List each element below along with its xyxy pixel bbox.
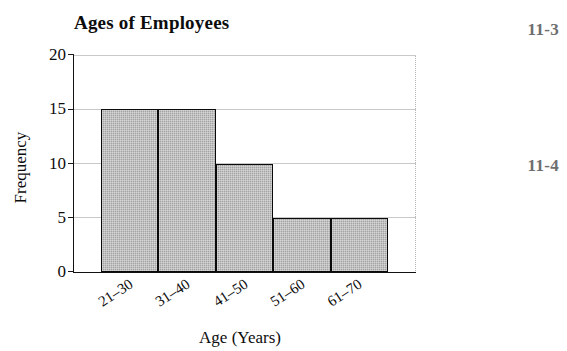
- histogram-figure: Ages of Employees 05101520 21–3031–4041–…: [0, 0, 567, 351]
- plot-area: [73, 55, 416, 273]
- y-tick-label: 20: [38, 46, 66, 63]
- y-axis-title: Frequency: [11, 116, 30, 220]
- x-tick-label: 61–70: [325, 277, 365, 310]
- y-tick-label-wrap: 20: [30, 46, 66, 63]
- x-axis-title: Age (Years): [150, 328, 330, 347]
- page-marker-2: 11-4: [528, 156, 559, 176]
- x-tick-label: 51–60: [268, 277, 308, 310]
- bar: [101, 109, 158, 272]
- y-tick-label-wrap: 10: [30, 155, 66, 172]
- bar: [273, 218, 330, 272]
- chart-title: Ages of Employees: [74, 12, 374, 34]
- y-tick-label-wrap: 15: [30, 100, 66, 117]
- x-tick-label: 31–40: [153, 277, 193, 310]
- bar: [331, 218, 388, 272]
- page-marker-1: 11-3: [528, 20, 559, 40]
- y-tick-label-wrap: 0: [30, 263, 66, 280]
- y-tick-label: 10: [38, 155, 66, 172]
- y-tick-label-wrap: 5: [30, 209, 66, 226]
- x-tick-label: 41–50: [211, 277, 251, 310]
- y-tick-label: 15: [38, 100, 66, 117]
- y-tick-label: 5: [38, 209, 66, 226]
- bar: [158, 109, 215, 272]
- x-tick-label: 21–30: [96, 277, 136, 310]
- y-tick-label: 0: [38, 263, 66, 280]
- bar: [216, 164, 273, 273]
